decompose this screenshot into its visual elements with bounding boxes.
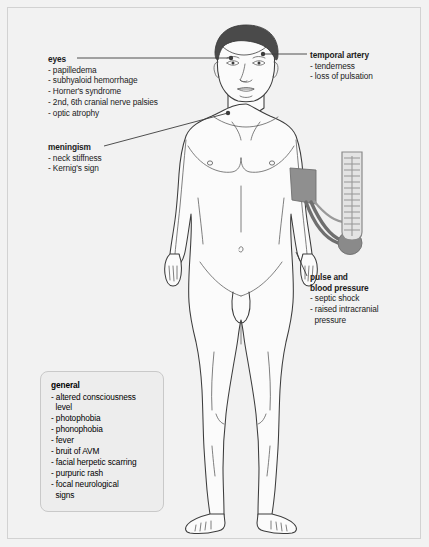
manometer — [342, 152, 362, 240]
callout-general-list: - altered consciousness level - photopho… — [51, 392, 154, 501]
callout-general-box: general - altered consciousness level - … — [40, 371, 164, 512]
list-item: - facial herpetic scarring — [51, 457, 154, 468]
figure-page: .ol { fill: none; stroke: #3c3c3c; strok… — [0, 0, 429, 547]
callout-meningism-list: - neck stiffness - Kernig's sign — [48, 153, 198, 175]
list-item: level — [51, 402, 154, 413]
list-item: - photophobia — [51, 413, 154, 424]
list-item: - altered consciousness — [51, 392, 154, 403]
list-item: - subhyaloid hemorrhage — [48, 75, 223, 86]
list-item: - raised intracranial — [310, 304, 422, 315]
list-item: - 2nd, 6th cranial nerve palsies — [48, 97, 223, 108]
list-item: - purpuric rash — [51, 468, 154, 479]
meningism-anchor-dot — [226, 111, 230, 115]
temporal-artery-anchor-dot — [261, 52, 265, 56]
callout-temporal-artery: temporal artery - tenderness - loss of p… — [310, 50, 425, 82]
list-item: - tenderness — [310, 61, 425, 72]
callout-pulse-title-line1: pulse and — [310, 272, 422, 283]
list-item: - phonophobia — [51, 424, 154, 435]
list-item: - optic atrophy — [48, 108, 223, 119]
list-item: - Horner's syndrome — [48, 86, 223, 97]
list-item: - fever — [51, 435, 154, 446]
list-item: - Kernig's sign — [48, 163, 198, 174]
callout-eyes-title: eyes — [48, 54, 223, 65]
callout-pulse-title-line2: blood pressure — [310, 283, 422, 294]
list-item: - bruit of AVM — [51, 446, 154, 457]
list-item: pressure — [310, 315, 422, 326]
callout-meningism: meningism - neck stiffness - Kernig's si… — [48, 142, 198, 174]
list-item: - neck stiffness — [48, 153, 198, 164]
blood-pressure-cuff — [290, 168, 316, 204]
callout-temporal-artery-title: temporal artery — [310, 50, 425, 61]
list-item: signs — [51, 490, 154, 501]
list-item: - focal neurological — [51, 479, 154, 490]
callout-eyes: eyes - papilledema - subhyaloid hemorrha… — [48, 54, 223, 119]
list-item: - loss of pulsation — [310, 71, 425, 82]
callout-general-title: general — [51, 380, 154, 391]
eyes-anchor-dot — [229, 56, 233, 60]
list-item: - papilledema — [48, 65, 223, 76]
list-item: - septic shock — [310, 293, 422, 304]
callout-meningism-title: meningism — [48, 142, 198, 153]
callout-temporal-artery-list: - tenderness - loss of pulsation — [310, 61, 425, 83]
callout-pulse-list: - septic shock - raised intracranial pre… — [310, 293, 422, 326]
callout-eyes-list: - papilledema - subhyaloid hemorrhage - … — [48, 65, 223, 120]
callout-pulse-blood-pressure: pulse and blood pressure - septic shock … — [310, 272, 422, 326]
